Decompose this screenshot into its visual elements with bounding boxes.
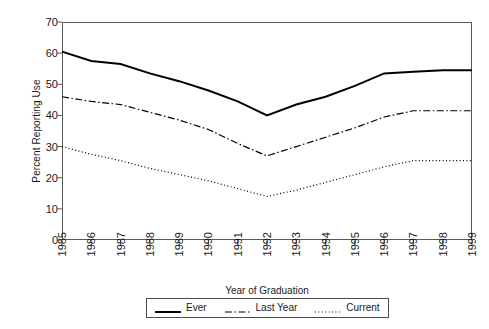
legend-entry-last-year: Last Year [225, 303, 298, 313]
chart-legend: EverLast YearCurrent [146, 298, 389, 318]
y-tick-label: 50 [32, 79, 58, 90]
line-chart-figure: Percent Reporting Use 706050403020100 19… [0, 0, 489, 329]
series-line-ever [62, 52, 472, 116]
x-tick-label: 1992 [261, 232, 273, 276]
legend-swatch-last-year-icon [225, 303, 251, 313]
series-line-current [62, 147, 472, 197]
legend-swatch-current-icon [315, 303, 341, 313]
y-axis-tick-labels: 706050403020100 [28, 0, 58, 329]
x-tick-label: 1998 [437, 232, 449, 276]
y-tick-label: 40 [32, 110, 58, 121]
legend-swatch-ever-icon [155, 303, 181, 313]
legend-label: Current [346, 303, 379, 313]
x-tick-label: 1988 [144, 232, 156, 276]
x-axis-tick-labels: 1985198619871988198919901991199219931994… [62, 240, 472, 286]
x-tick-label: 1997 [407, 232, 419, 276]
y-tick-label: 10 [32, 204, 58, 215]
x-tick-label: 1985 [56, 232, 68, 276]
x-tick-label: 1986 [85, 232, 97, 276]
x-tick-label: 1991 [232, 232, 244, 276]
y-tick-label: 70 [32, 17, 58, 28]
x-tick-label: 1990 [202, 232, 214, 276]
x-tick-label: 1989 [173, 232, 185, 276]
y-tick-label: 60 [32, 48, 58, 59]
series-line-last-year [62, 97, 472, 156]
x-tick-label: 1996 [378, 232, 390, 276]
legend-label: Last Year [256, 303, 298, 313]
x-tick-label: 1994 [320, 232, 332, 276]
y-tick-label: 0 [32, 235, 58, 246]
x-tick-label: 1995 [349, 232, 361, 276]
legend-entry-ever: Ever [155, 303, 207, 313]
y-tick-label: 30 [32, 142, 58, 153]
x-axis-title: Year of Graduation [62, 285, 472, 297]
y-tick-label: 20 [32, 173, 58, 184]
x-tick-label: 1987 [115, 232, 127, 276]
x-tick-label: 1993 [290, 232, 302, 276]
plot-series-layer [62, 22, 472, 240]
legend-entry-current: Current [315, 303, 379, 313]
x-tick-label: 1999 [466, 232, 478, 276]
legend-label: Ever [186, 303, 207, 313]
